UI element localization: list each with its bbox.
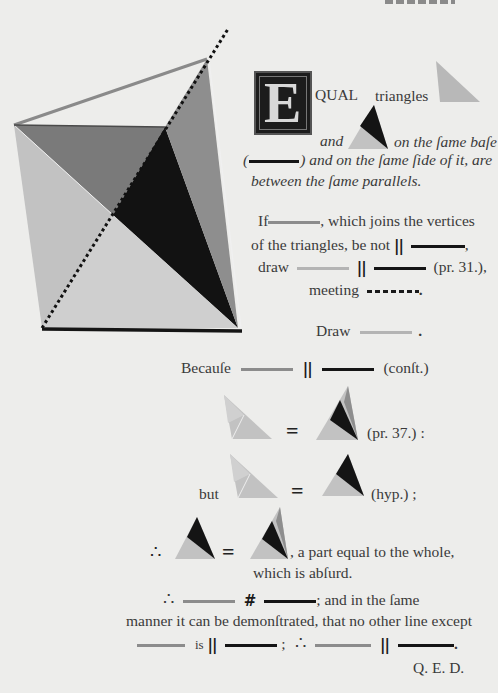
light-line-symbol (360, 331, 412, 334)
because-line: Becauſe || (conſt.) (181, 359, 429, 378)
text-part-equal-whole: , a part equal to the whole, (290, 543, 454, 561)
joining-line-symbol (183, 600, 235, 603)
if-line: If, which joins the vertices (258, 212, 475, 230)
conclusion-line-1: ∴ # ; and in the ſame (163, 590, 420, 610)
parallel-symbol: || (394, 237, 403, 255)
base-line-symbol (322, 368, 374, 371)
triangles-not-parallel-line: of the triangles, be not || , (251, 236, 469, 255)
two-tone-triangle-icon (320, 452, 366, 498)
base-line-symbol (249, 160, 299, 163)
word-qual: QUAL (315, 86, 358, 104)
word-but: but (199, 485, 219, 503)
composite-light-triangle-icon (228, 452, 280, 500)
base-line-symbol (225, 644, 277, 647)
ref-pr37: (pr. 37.) : (367, 424, 425, 442)
equals-symbol: = (291, 478, 304, 504)
composite-light-triangle-icon (222, 393, 274, 441)
equals-symbol: = (222, 539, 235, 565)
base-line-symbol (374, 267, 426, 270)
text-between-parallels: between the ſame parallels. (251, 172, 421, 190)
text-on-same-base: on the ſame baſe (394, 133, 497, 151)
conclusion-line-3: is || ; ∴ || . (137, 634, 458, 654)
conclusion-line-2: manner it can be demonſtrated, that no o… (126, 612, 472, 630)
draw-line: Draw . (316, 322, 422, 340)
parallel-symbol: || (357, 259, 366, 277)
parallel-symbol: || (207, 636, 216, 654)
base-line-symbol (264, 600, 316, 603)
base-line-symbol (411, 245, 465, 248)
meeting-line: meeting . (309, 281, 423, 299)
two-tone-triangle-icon (346, 103, 390, 151)
composite-dark-triangle-icon (314, 384, 362, 442)
word-and: and (320, 132, 343, 150)
light-line-symbol (241, 368, 293, 371)
main-diagram (0, 0, 250, 345)
parallel-symbol: || (303, 360, 312, 378)
qed: Q. E. D. (413, 659, 464, 677)
light-triangle-icon (434, 60, 484, 104)
ref-hyp: (hyp.) ; (371, 485, 417, 503)
joining-line-symbol (137, 644, 185, 647)
joining-line-symbol (268, 221, 320, 224)
drop-cap: E (254, 71, 312, 135)
base-line (42, 329, 242, 331)
not-parallel-symbol: # (244, 592, 256, 610)
parallel-symbol: || (380, 636, 389, 654)
dotted-line-symbol (367, 290, 419, 293)
header-fragment (385, 0, 455, 4)
composite-dark-triangle-icon (248, 505, 290, 561)
light-line-symbol (297, 267, 349, 270)
joining-line-symbol (315, 644, 371, 647)
two-tone-triangle-icon (173, 515, 219, 561)
therefore-symbol: ∴ (150, 541, 161, 563)
draw-parallel-line: draw || (pr. 31.), (258, 258, 487, 277)
text-absurd: which is abſurd. (253, 564, 352, 582)
text-same-side: () and on the ſame ſide of it, are (243, 151, 492, 169)
base-line-symbol (398, 644, 454, 647)
equals-symbol: = (286, 418, 299, 444)
